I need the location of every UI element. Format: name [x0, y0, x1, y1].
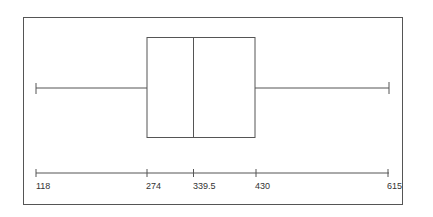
box-plot-chart: 118 274 339.5 430 615	[0, 0, 433, 217]
tick-label-q1: 274	[146, 181, 161, 191]
tick-label-median: 339.5	[193, 181, 216, 191]
chart-frame	[24, 18, 403, 205]
iqr-box	[147, 38, 255, 138]
tick-label-q3: 430	[255, 181, 270, 191]
tick-label-min: 118	[36, 181, 50, 191]
tick-label-max: 615	[387, 181, 402, 191]
